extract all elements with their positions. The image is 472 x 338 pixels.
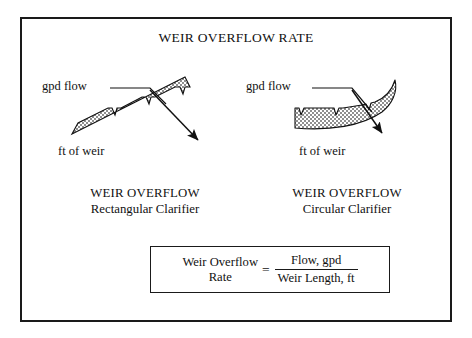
rectangular-caption: WEIR OVERFLOW Rectangular Clarifier: [50, 186, 240, 217]
circular-gpd-flow-label: gpd flow: [246, 80, 291, 94]
formula-left-side: Weir Overflow Rate: [182, 255, 258, 285]
formula-denominator: Weir Length, ft: [275, 270, 358, 286]
circular-caption: WEIR OVERFLOW Circular Clarifier: [252, 186, 442, 217]
weir-overflow-rate-figure: WEIR OVERFLOW RATE: [0, 0, 472, 338]
formula-box: Weir Overflow Rate = Flow, gpd Weir Leng…: [150, 246, 390, 293]
formula-lhs-line2: Rate: [182, 270, 258, 285]
rectangular-gpd-flow-label: gpd flow: [42, 80, 87, 94]
formula-lhs-line1: Weir Overflow: [182, 255, 258, 270]
rectangular-caption-top: WEIR OVERFLOW: [50, 186, 240, 202]
rectangular-caption-bottom: Rectangular Clarifier: [50, 202, 240, 218]
figure-title: WEIR OVERFLOW RATE: [0, 30, 472, 46]
formula-equals-sign: =: [262, 261, 270, 278]
rectangular-ft-of-weir-label: ft of weir: [58, 145, 105, 159]
formula-content: Weir Overflow Rate = Flow, gpd Weir Leng…: [151, 247, 389, 292]
formula-numerator: Flow, gpd: [275, 253, 358, 270]
circular-caption-bottom: Circular Clarifier: [252, 202, 442, 218]
formula-fraction: Flow, gpd Weir Length, ft: [275, 253, 358, 286]
circular-ft-of-weir-label: ft of weir: [299, 145, 346, 159]
circular-caption-top: WEIR OVERFLOW: [252, 186, 442, 202]
